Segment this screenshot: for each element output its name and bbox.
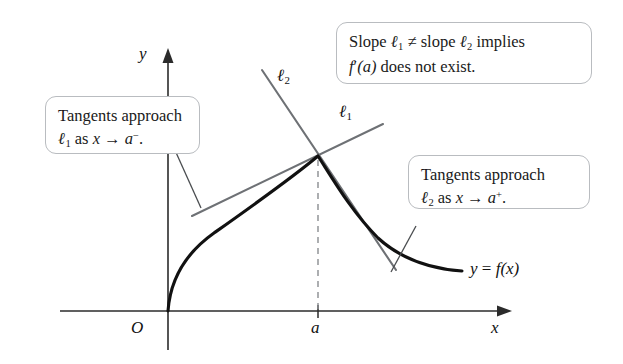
variable-a: a	[125, 129, 133, 148]
tangent-line-1	[192, 124, 383, 216]
tangent-line-2	[262, 70, 396, 270]
function-label: y = f(x)	[470, 259, 519, 279]
x-tick-label-a: a	[311, 318, 320, 338]
function-label-arg: (x)	[500, 259, 519, 278]
callout-left-line-2: ℓ1 as x → a−.	[58, 127, 188, 152]
origin-label: O	[131, 318, 143, 338]
variable-a: a	[488, 188, 496, 207]
ell-subscript: 1	[346, 110, 352, 122]
callout-top-implies: implies	[472, 32, 525, 51]
callout-top-line-1: Slope ℓ1 ≠ slope ℓ2 implies	[349, 30, 580, 55]
variable-x: x	[456, 188, 463, 207]
ell-glyph: ℓ	[58, 129, 65, 148]
callout-slope-inequality: Slope ℓ1 ≠ slope ℓ2 implies f′(a) does n…	[336, 22, 592, 84]
ell-glyph: ℓ	[391, 32, 398, 51]
callout-top-not-exist: does not exist.	[376, 57, 475, 76]
callout-left-as: as	[71, 129, 93, 148]
tangent-line-1-label: ℓ1	[339, 102, 352, 122]
function-label-y: y	[470, 259, 478, 278]
calculus-figure: y x O a y = f(x) ℓ1 ℓ2 Slope ℓ1 ≠ slope …	[0, 0, 623, 364]
callout-right-as: as	[434, 188, 456, 207]
callout-top-neq: ≠ slope	[403, 32, 459, 51]
callout-right-line-1: Tangents approach	[421, 163, 578, 186]
x-axis-label: x	[491, 318, 499, 338]
arrow-glyph: →	[100, 129, 125, 148]
callout-top-slope-word: Slope	[349, 32, 391, 51]
x-axis	[60, 306, 512, 317]
variable-x: x	[93, 129, 100, 148]
callout-left-period: .	[139, 129, 143, 148]
callout-left-line-1: Tangents approach	[58, 104, 188, 127]
callout-right-tangents: Tangents approach ℓ2 as x → a+.	[408, 155, 590, 209]
callout-top-line-2: f′(a) does not exist.	[349, 55, 580, 78]
derivative-argument: (a)	[357, 57, 376, 76]
left-callout-leader	[174, 148, 201, 208]
function-label-equals: =	[478, 259, 496, 278]
ell-glyph: ℓ	[421, 188, 428, 207]
y-axis-label: y	[139, 44, 147, 64]
callout-left-tangents: Tangents approach ℓ1 as x → a−.	[45, 96, 200, 154]
arrow-glyph: →	[463, 188, 488, 207]
callout-right-period: .	[502, 188, 506, 207]
ell-subscript: 2	[284, 74, 290, 86]
callout-right-line-2: ℓ2 as x → a+.	[421, 186, 578, 211]
ell-glyph: ℓ	[460, 32, 467, 51]
tangent-line-2-label: ℓ2	[277, 66, 290, 86]
